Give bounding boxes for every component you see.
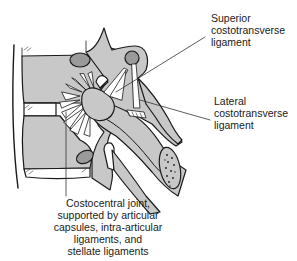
label-costocentral-joint: Costocentral joint, supported by articul… (38, 197, 178, 257)
anterior-longitudinal-ligament (13, 45, 18, 188)
label-lateral-costotransverse-ligament: Lateral costotransverse ligament (214, 95, 288, 131)
label-superior-costotransverse-ligament: Superior costotransverse ligament (211, 12, 285, 48)
upper-costal-facet (70, 53, 90, 67)
transverse-costal-facet (125, 51, 139, 65)
lower-endplate (24, 168, 90, 179)
